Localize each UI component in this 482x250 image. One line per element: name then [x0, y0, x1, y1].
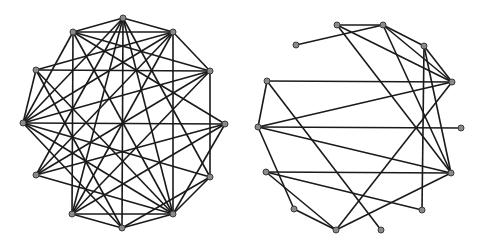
node-a — [334, 22, 340, 28]
node-F — [20, 120, 26, 126]
node-e — [264, 78, 270, 84]
right-graph — [255, 22, 464, 233]
edge-D-E — [36, 70, 210, 71]
node-I — [207, 174, 213, 180]
edge-e-g — [258, 81, 267, 127]
node-g — [255, 124, 261, 130]
node-J — [69, 211, 75, 217]
graph-diagram — [0, 0, 482, 250]
node-b — [380, 22, 386, 28]
node-K — [170, 211, 176, 217]
edge-g-k — [258, 127, 294, 209]
node-k — [291, 206, 297, 212]
edge-A-C — [123, 18, 173, 32]
node-D — [33, 67, 39, 73]
edge-i-j — [266, 172, 451, 173]
node-H — [33, 172, 39, 178]
node-h — [458, 125, 464, 131]
node-j — [448, 170, 454, 176]
right-graph-edges — [258, 25, 461, 230]
node-i — [263, 169, 269, 175]
edge-G-J — [72, 124, 225, 214]
node-B — [70, 29, 76, 35]
left-graph-edges — [23, 18, 225, 228]
edge-K-L — [122, 214, 173, 228]
node-f — [449, 79, 455, 85]
node-l — [419, 207, 425, 213]
edge-g-h — [258, 127, 461, 128]
node-E — [207, 68, 213, 74]
edge-G-H — [36, 124, 225, 175]
node-d — [421, 43, 427, 49]
node-n — [378, 227, 384, 233]
node-A — [120, 15, 126, 21]
edge-e-n — [267, 81, 381, 230]
edge-d-j — [424, 46, 451, 173]
node-m — [333, 227, 339, 233]
node-G — [222, 121, 228, 127]
node-c — [293, 42, 299, 48]
node-L — [119, 225, 125, 231]
node-C — [170, 29, 176, 35]
left-graph — [20, 15, 228, 231]
edge-e-f — [267, 81, 452, 82]
edge-m-j — [336, 173, 451, 230]
edge-F-G — [23, 123, 225, 124]
